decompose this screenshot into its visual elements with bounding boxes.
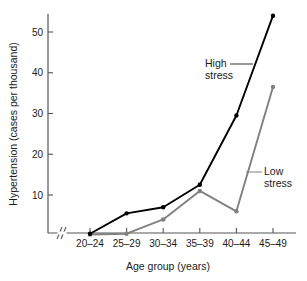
data-point: [198, 183, 202, 187]
data-point: [234, 113, 238, 117]
x-tick-label: 35–39: [186, 238, 214, 249]
x-tick-label: 20–24: [76, 238, 104, 249]
y-tick-label: 40: [32, 67, 44, 78]
x-axis-title: Age group (years): [126, 260, 210, 272]
high-stress-label-line2: stress: [205, 69, 233, 81]
series-line: [90, 16, 273, 234]
chart-figure: 1020304050 20–2425–2930–3435–3940–4445–4…: [0, 0, 307, 281]
y-tick-label: 50: [32, 27, 44, 38]
x-tick-label: 30–34: [149, 238, 177, 249]
data-point: [124, 211, 128, 215]
axes: [48, 14, 296, 239]
data-point: [271, 85, 275, 89]
low-stress-label-line1: Low: [264, 165, 284, 177]
data-point: [124, 232, 128, 236]
low-stress-annotation: Low stress: [264, 165, 292, 189]
x-tick-label: 25–29: [113, 238, 141, 249]
x-tick-label: 40–44: [222, 238, 250, 249]
high-stress-annotation: High stress: [205, 57, 233, 81]
data-point: [161, 205, 165, 209]
high-stress-label-line1: High: [205, 57, 227, 69]
x-axis-ticks: 20–2425–2930–3435–3940–4445–49: [76, 228, 287, 249]
data-point: [88, 232, 92, 236]
x-tick-label: 45–49: [259, 238, 287, 249]
data-point: [234, 209, 238, 213]
series-line: [90, 87, 273, 235]
low-stress-label-line2: stress: [264, 177, 292, 189]
y-tick-label: 30: [32, 108, 44, 119]
y-tick-label: 20: [32, 149, 44, 160]
hypertension-line-chart: 1020304050 20–2425–2930–3435–3940–4445–4…: [0, 0, 307, 281]
y-axis-title: Hypertension (cases per thousand): [7, 42, 19, 205]
x-axis-break-icon: [57, 227, 67, 239]
y-tick-label: 10: [32, 190, 44, 201]
data-point: [198, 189, 202, 193]
data-point: [161, 217, 165, 221]
series-layer: [88, 14, 275, 237]
data-point: [271, 14, 275, 18]
y-axis-ticks: 1020304050: [32, 27, 53, 201]
